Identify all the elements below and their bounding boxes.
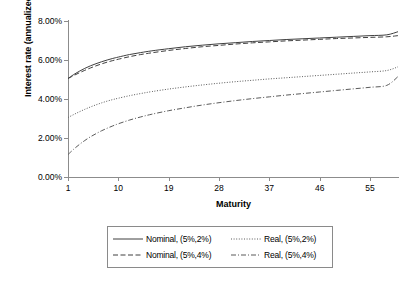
- x-tick-label: 55: [355, 183, 385, 195]
- legend-line-sample-dotted: [231, 235, 261, 243]
- x-tick-label: 1: [53, 183, 83, 195]
- chart-figure: Interest rate (annualized) 0.00%2.00%4.0…: [0, 0, 411, 284]
- legend-row: Nominal, (5%,4%) Real, (5%,4%): [113, 247, 327, 263]
- legend-label: Real, (5%,4%): [264, 250, 316, 260]
- legend-row: Nominal, (5%,2%) Real, (5%,2%): [113, 231, 327, 247]
- y-tick-label: 2.00%: [18, 133, 62, 143]
- series-lines: [68, 21, 398, 177]
- x-tick-label: 46: [305, 183, 335, 195]
- chart-legend: Nominal, (5%,2%) Real, (5%,2%) Nominal, …: [107, 226, 333, 268]
- x-tick-mark: [219, 177, 220, 181]
- x-tick-mark: [68, 177, 69, 181]
- x-tick-label: 19: [154, 183, 184, 195]
- x-tick-mark: [370, 177, 371, 181]
- legend-label: Nominal, (5%,2%): [146, 234, 211, 244]
- legend-label: Real, (5%,2%): [264, 234, 316, 244]
- legend-line-sample-solid: [113, 235, 143, 243]
- x-tick-label: 10: [103, 183, 133, 195]
- y-tick-label: 4.00%: [18, 94, 62, 104]
- legend-line-sample-dashed: [113, 251, 143, 259]
- series-line: [68, 67, 398, 118]
- x-tick-mark: [169, 177, 170, 181]
- y-tick-label: 8.00%: [18, 16, 62, 26]
- y-tick-label: 6.00%: [18, 55, 62, 65]
- legend-line-sample-dashdot: [231, 251, 261, 259]
- legend-item-nominal-5-2[interactable]: Nominal, (5%,2%): [113, 234, 231, 244]
- y-tick-label: 0.00%: [18, 172, 62, 182]
- x-tick-mark: [269, 177, 270, 181]
- x-tick-mark: [118, 177, 119, 181]
- x-tick-mark: [320, 177, 321, 181]
- x-axis-title: Maturity: [68, 199, 399, 209]
- legend-item-real-5-4[interactable]: Real, (5%,4%): [231, 250, 316, 260]
- series-line: [68, 77, 398, 155]
- x-tick-label: 28: [204, 183, 234, 195]
- legend-item-real-5-2[interactable]: Real, (5%,2%): [231, 234, 316, 244]
- plot-area: [68, 21, 398, 177]
- series-line: [68, 32, 398, 79]
- legend-label: Nominal, (5%,4%): [146, 250, 211, 260]
- x-tick-label: 37: [254, 183, 284, 195]
- legend-item-nominal-5-4[interactable]: Nominal, (5%,4%): [113, 250, 231, 260]
